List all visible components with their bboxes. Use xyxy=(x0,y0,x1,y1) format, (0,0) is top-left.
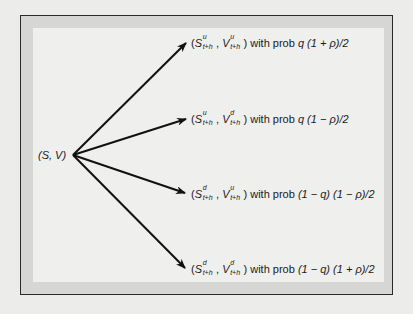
branch-label-4: (Sdt+h, Vdt+h) with prob (1 − q) (1 + ρ)… xyxy=(191,264,375,275)
branch-label-1: (Sut+h, Vut+h) with prob q (1 + ρ)/2 xyxy=(191,38,349,49)
comma: , xyxy=(216,188,219,200)
s-symbol: Sdt+h xyxy=(195,264,216,275)
comma: , xyxy=(216,113,219,125)
with-prob-text: with prob xyxy=(250,263,295,275)
probability-expression: q (1 + ρ)/2 xyxy=(298,37,349,49)
s-symbol: Sdt+h xyxy=(195,189,216,200)
root-node-label: (S, V) xyxy=(38,150,66,161)
comma: , xyxy=(216,37,219,49)
v-symbol: Vdt+h xyxy=(222,114,243,125)
branch-label-2: (Sut+h, Vdt+h) with prob q (1 − ρ)/2 xyxy=(191,114,349,125)
paren-close: ) xyxy=(243,263,247,275)
with-prob-text: with prob xyxy=(250,113,295,125)
with-prob-text: with prob xyxy=(250,188,295,200)
probability-expression: (1 − q) (1 − ρ)/2 xyxy=(298,188,375,200)
arrow-branch-3 xyxy=(73,155,185,193)
with-prob-text: with prob xyxy=(250,37,295,49)
paren-close: ) xyxy=(243,113,247,125)
probability-expression: q (1 − ρ)/2 xyxy=(298,113,349,125)
s-symbol: Sut+h xyxy=(195,114,216,125)
arrow-branch-4 xyxy=(73,155,185,268)
paren-close: ) xyxy=(243,37,247,49)
v-symbol: Vdt+h xyxy=(222,264,243,275)
v-symbol: Vut+h xyxy=(222,38,243,49)
v-symbol: Vut+h xyxy=(222,189,243,200)
comma: , xyxy=(216,263,219,275)
branch-label-3: (Sdt+h, Vut+h) with prob (1 − q) (1 − ρ)… xyxy=(191,189,375,200)
probability-expression: (1 − q) (1 + ρ)/2 xyxy=(298,263,375,275)
arrow-branch-1 xyxy=(73,43,186,155)
paren-close: ) xyxy=(243,188,247,200)
s-symbol: Sut+h xyxy=(195,38,216,49)
